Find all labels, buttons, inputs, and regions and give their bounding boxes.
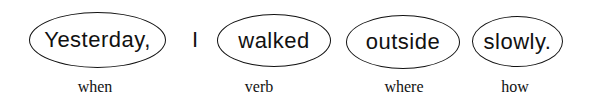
word-i: I [192,27,198,53]
word-slowly-oval: slowly. [472,16,563,67]
label-where: where [384,78,423,96]
word-yesterday: Yesterday, [44,27,151,53]
word-outside: outside [366,29,440,55]
word-slowly: slowly. [484,29,552,55]
word-walked: walked [238,28,309,54]
label-how: how [501,78,529,96]
word-walked-oval: walked [217,14,331,67]
label-verb: verb [245,78,273,96]
word-yesterday-oval: Yesterday, [29,12,166,68]
label-when: when [78,78,113,96]
word-outside-oval: outside [346,15,460,69]
